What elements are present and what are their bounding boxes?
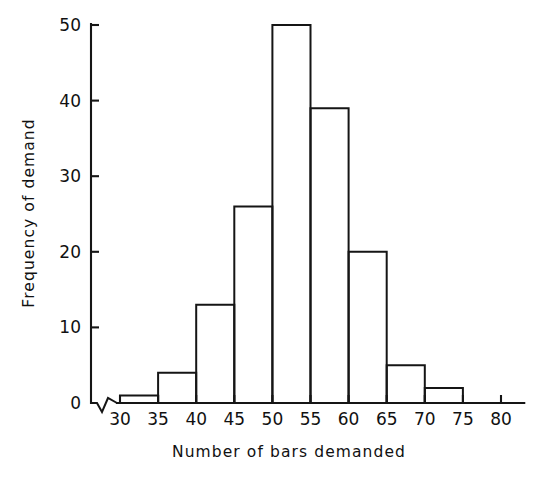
figure-background <box>0 0 558 479</box>
y-tick-label: 30 <box>59 166 81 186</box>
x-tick-label: 55 <box>300 409 322 429</box>
y-tick-label: 50 <box>59 15 81 35</box>
x-tick-label: 75 <box>452 409 474 429</box>
y-tick-label: 10 <box>59 317 81 337</box>
x-tick-label: 60 <box>338 409 360 429</box>
y-tick-label: 40 <box>59 91 81 111</box>
x-tick-label: 65 <box>376 409 398 429</box>
histogram-figure: 01020304050 3035404550556065707580 Numbe… <box>0 0 558 479</box>
x-tick-label: 45 <box>223 409 245 429</box>
x-tick-label: 70 <box>414 409 436 429</box>
x-tick-label: 40 <box>185 409 207 429</box>
x-tick-label: 50 <box>262 409 284 429</box>
y-axis-title: Frequency of demand <box>20 118 38 307</box>
x-tick-label: 80 <box>490 409 512 429</box>
histogram-plot: 01020304050 3035404550556065707580 Numbe… <box>0 0 558 479</box>
y-tick-label: 0 <box>70 393 81 413</box>
x-axis-title: Number of bars demanded <box>172 443 406 461</box>
y-tick-label: 20 <box>59 242 81 262</box>
x-tick-label: 30 <box>109 409 131 429</box>
x-tick-label: 35 <box>147 409 169 429</box>
